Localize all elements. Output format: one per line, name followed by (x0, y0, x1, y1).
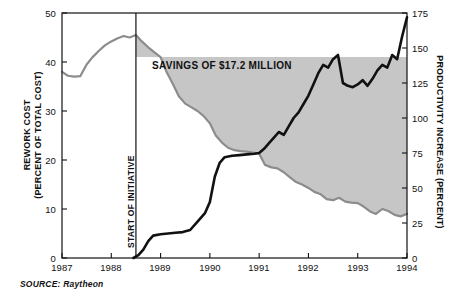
x-tick-label: 1993 (341, 262, 375, 273)
y2-tick-label: 125 (412, 78, 434, 89)
x-tick-label: 1990 (193, 262, 227, 273)
left-axis-title-line2: (PERCENT OF TOTAL COST) (33, 25, 43, 245)
y2-tick-label: 25 (412, 218, 434, 229)
x-tick-label: 1989 (143, 262, 177, 273)
y2-tick-label: 75 (412, 148, 434, 159)
x-tick-label: 1992 (291, 262, 325, 273)
y2-tick-label: 50 (412, 183, 434, 194)
chart-figure: 50 40 30 20 10 0 175 150 125 100 75 50 2… (0, 0, 458, 301)
y2-tick-label: 150 (412, 43, 434, 54)
x-tick-label: 1988 (94, 262, 128, 273)
y2-tick-label: 175 (412, 8, 434, 19)
x-tick-label: 1991 (242, 262, 276, 273)
start-of-initiative-label: START OF INITIATIVE (126, 155, 136, 248)
x-tick-label: 1987 (45, 262, 79, 273)
right-axis-title: PRODUCTIVITY INCREASE (PERCENT) (435, 32, 445, 252)
y-tick-label: 50 (36, 8, 56, 19)
savings-band-label: SAVINGS OF $17.2 MILLION (152, 60, 292, 71)
chart-canvas (0, 0, 458, 301)
source-note: SOURCE: Raytheon (20, 279, 104, 289)
x-tick-label: 1994 (390, 262, 424, 273)
left-axis-title-line1: REWORK COST (22, 45, 32, 225)
y2-tick-label: 100 (412, 113, 434, 124)
